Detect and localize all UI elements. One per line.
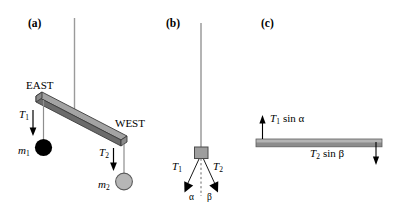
- beam-top-face-c: [256, 139, 382, 142]
- force-right-arrow-head: [373, 157, 379, 166]
- mass-1-symbol: m: [18, 144, 26, 156]
- tension-1-subscript-a: 1: [25, 113, 29, 122]
- panel-c-graphic: [254, 0, 399, 215]
- mass-2-label: m2: [98, 178, 110, 192]
- tension-2-subscript-a: 2: [105, 151, 109, 160]
- force-right-label: T2sin β: [310, 147, 344, 161]
- hanging-block: [195, 147, 209, 159]
- tension-1-arrow-head-b: [184, 181, 193, 192]
- mass-1-label: m1: [18, 144, 30, 158]
- angle-alpha-label: α: [189, 192, 194, 202]
- mass-1-subscript: 1: [26, 149, 30, 158]
- mass-2-symbol: m: [98, 178, 106, 190]
- force-left-label: T1sin α: [270, 112, 304, 126]
- west-label: WEST: [115, 117, 145, 129]
- mass-2-bob: [116, 173, 133, 190]
- force-right-rest: sin β: [320, 147, 344, 159]
- east-label: EAST: [26, 79, 54, 91]
- panel-b-graphic: [150, 0, 260, 215]
- mass-1-bob: [35, 139, 52, 156]
- physics-figure: (a): [0, 0, 399, 215]
- tension-2-label-b: T2: [213, 160, 223, 174]
- tension-2-subscript-b: 2: [219, 165, 223, 174]
- tension-1-label-a: T1: [19, 108, 29, 122]
- beam-front-face-a: [36, 96, 121, 146]
- tension-1-arrow-shaft-b: [188, 159, 200, 184]
- force-left-arrow-head: [259, 115, 265, 124]
- tension-1-subscript-b: 1: [178, 165, 182, 174]
- tension-2-arrow-head-b: [209, 181, 218, 192]
- tension-1-arrow-head-a: [30, 128, 37, 137]
- angle-beta-label: β: [207, 192, 212, 202]
- force-left-rest: sin α: [280, 112, 304, 124]
- tension-2-arrow-head-a: [110, 163, 117, 172]
- beam-top-face-a: [36, 92, 127, 140]
- tension-1-label-b: T1: [172, 160, 182, 174]
- mass-2-subscript: 2: [106, 183, 110, 192]
- tension-2-label-a: T2: [99, 146, 109, 160]
